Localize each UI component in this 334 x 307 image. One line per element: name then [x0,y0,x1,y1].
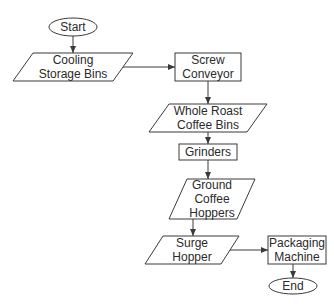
cooling-label-line: Storage Bins [39,67,108,81]
packaging-label-line: Packaging [269,236,325,250]
node-cooling: CoolingStorage Bins [13,53,133,81]
end-label-line: End [282,279,303,293]
surge-label-line: Surge [176,236,208,250]
node-ground: GroundCoffeeHoppers [169,178,255,220]
node-end: End [269,278,317,294]
start-label-line: Start [60,20,86,34]
node-packaging: PackagingMachine [268,236,326,264]
node-whole: Whole RoastCoffee Bins [149,104,267,132]
ground-label-line: Ground [192,178,232,192]
whole-label-line: Coffee Bins [177,118,239,132]
screw-label-line: Conveyor [182,67,233,81]
packaging-label-line: Machine [274,250,320,264]
ground-label-line: Hoppers [189,206,234,220]
node-screw: ScrewConveyor [175,53,241,81]
node-start: Start [49,18,97,36]
screw-label-line: Screw [191,53,225,67]
ground-label-line: Coffee [194,192,229,206]
flowchart: StartCoolingStorage BinsScrewConveyorWho… [0,0,334,307]
surge-label-line: Hopper [172,250,211,264]
cooling-label-line: Cooling [53,53,94,67]
whole-label-line: Whole Roast [174,104,243,118]
node-grinders: Grinders [179,144,237,160]
grinders-label-line: Grinders [185,145,231,159]
node-surge: SurgeHopper [145,236,239,264]
